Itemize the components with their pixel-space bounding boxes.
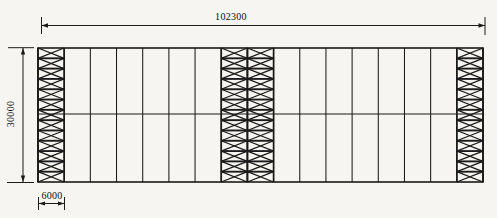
bay-width-dimension-label: 6000 <box>41 190 62 201</box>
dimension-arrow-right <box>479 23 486 27</box>
bay-dimension: 6000 <box>39 190 65 211</box>
dimension-arrow-down <box>21 176 25 183</box>
dimension-arrow-right <box>58 201 65 205</box>
dimension-arrow-left <box>42 23 49 27</box>
top-dimension: 102300 <box>42 11 486 35</box>
x-bracing-layer <box>38 48 483 182</box>
structural-bracing-plan: 102300 30000 6000 <box>0 0 497 218</box>
overall-width-dimension-label: 102300 <box>215 11 247 22</box>
dimension-arrow-left <box>39 201 46 205</box>
dimension-arrow-up <box>21 48 25 55</box>
left-dimension: 30000 <box>5 48 34 183</box>
overall-height-dimension-label: 30000 <box>5 101 16 128</box>
bracing-plan-drawing: 102300 30000 6000 <box>0 0 497 218</box>
